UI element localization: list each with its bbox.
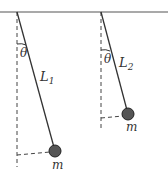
bob-1 [49,145,61,157]
displacement-line-2 [101,116,123,118]
angle-label-1: θ [20,46,28,60]
angle-arc-1 [17,44,26,45]
length-label-2: L2 [118,55,134,72]
length-label-1: L1 [39,69,54,86]
diagram-svg: θ L1 m θ L2 m [0,0,168,175]
displacement-line-1 [17,152,50,155]
pendulum-2: θ L2 m [101,12,137,134]
pendulum-diagram: θ L1 m θ L2 m [0,0,168,175]
bob-2 [122,108,134,120]
angle-arc-2 [101,50,110,51]
mass-label-1: m [52,158,63,172]
pendulum-1: θ L1 m [17,12,63,172]
mass-label-2: m [126,120,137,134]
angle-label-2: θ [104,52,112,66]
